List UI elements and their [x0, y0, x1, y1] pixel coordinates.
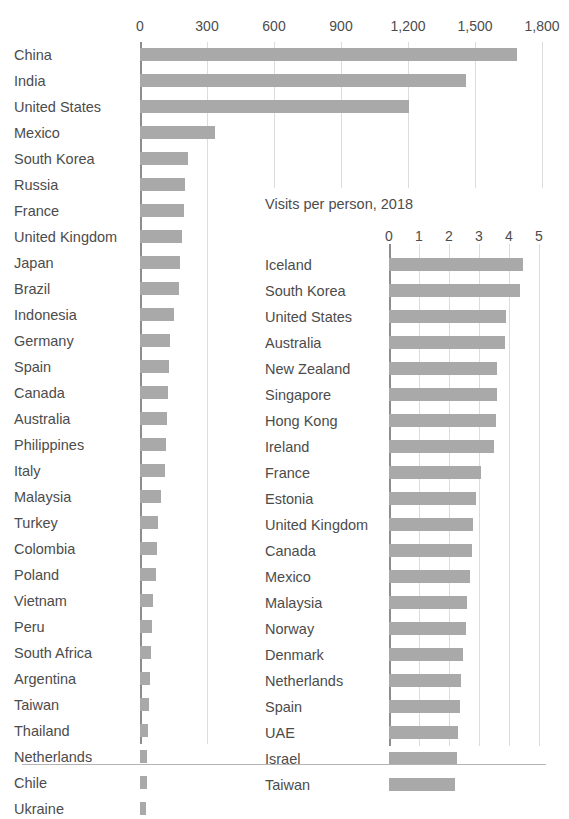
- category-label: South Korea: [265, 278, 387, 304]
- bar-row: [389, 408, 559, 434]
- category-label: Vietnam: [14, 588, 136, 614]
- inset-bar-chart: Visits per person, 2018 012345 IcelandSo…: [240, 188, 569, 754]
- category-label: Spain: [265, 694, 387, 720]
- category-label: Philippines: [14, 432, 136, 458]
- category-label: Italy: [14, 458, 136, 484]
- bar-row: [389, 434, 559, 460]
- bar: [389, 336, 505, 349]
- category-label: Colombia: [14, 536, 136, 562]
- bar: [389, 570, 470, 583]
- bar: [389, 778, 455, 791]
- category-label: United States: [14, 94, 136, 120]
- bar: [140, 698, 149, 711]
- x-tick-label: 5: [535, 228, 543, 244]
- category-label: Netherlands: [14, 744, 136, 770]
- bar: [140, 126, 215, 139]
- bar-row: [140, 120, 552, 146]
- bar-row: [389, 382, 559, 408]
- category-label: China: [14, 42, 136, 68]
- category-label: Netherlands: [265, 668, 387, 694]
- bar: [389, 362, 497, 375]
- category-label: Malaysia: [265, 590, 387, 616]
- x-tick-label: 0: [385, 228, 393, 244]
- bar-row: [389, 278, 559, 304]
- x-tick-label: 1,500: [457, 18, 492, 34]
- bar: [140, 516, 158, 529]
- bar: [140, 230, 182, 243]
- bar: [140, 646, 151, 659]
- category-label: Taiwan: [14, 692, 136, 718]
- category-label: United Kingdom: [14, 224, 136, 250]
- category-label: South Korea: [14, 146, 136, 172]
- category-label: Japan: [14, 250, 136, 276]
- bar: [140, 74, 466, 87]
- bar-row: [140, 42, 552, 68]
- category-label: Poland: [14, 562, 136, 588]
- bar-row: [389, 720, 559, 746]
- category-label: Norway: [265, 616, 387, 642]
- bar: [389, 648, 463, 661]
- category-label: South Africa: [14, 640, 136, 666]
- bar: [389, 518, 473, 531]
- category-label: Mexico: [14, 120, 136, 146]
- bar: [389, 596, 467, 609]
- bar-row: [389, 616, 559, 642]
- category-label: United States: [265, 304, 387, 330]
- category-label: Mexico: [265, 564, 387, 590]
- bar: [140, 750, 147, 763]
- bar: [389, 700, 460, 713]
- bar: [389, 310, 506, 323]
- category-label: Peru: [14, 614, 136, 640]
- bar: [140, 334, 170, 347]
- category-label: Ireland: [265, 434, 387, 460]
- x-tick-label: 1,200: [390, 18, 425, 34]
- bar: [140, 282, 179, 295]
- bar: [140, 594, 153, 607]
- bar-row: [389, 772, 559, 798]
- category-label: Spain: [14, 354, 136, 380]
- category-label: Ukraine: [14, 796, 136, 819]
- x-tick-label: 900: [329, 18, 352, 34]
- inset-chart-title: Visits per person, 2018: [265, 196, 413, 212]
- bar: [140, 620, 152, 633]
- category-label: Denmark: [265, 642, 387, 668]
- bar: [140, 204, 184, 217]
- bar: [389, 622, 466, 635]
- bar-row: [389, 304, 559, 330]
- category-label: Israel: [265, 746, 387, 772]
- inset-category-labels: IcelandSouth KoreaUnited StatesAustralia…: [265, 252, 387, 798]
- bar-row: [389, 330, 559, 356]
- category-label: New Zealand: [265, 356, 387, 382]
- x-tick-label: 1,800: [524, 18, 559, 34]
- bar-row: [140, 796, 552, 819]
- category-label: Argentina: [14, 666, 136, 692]
- bar: [389, 726, 458, 739]
- category-label: United Kingdom: [265, 512, 387, 538]
- bar: [140, 386, 168, 399]
- bar: [389, 258, 523, 271]
- bar: [389, 492, 476, 505]
- bar: [140, 308, 174, 321]
- category-label: Singapore: [265, 382, 387, 408]
- category-label: Canada: [14, 380, 136, 406]
- bar-row: [140, 94, 552, 120]
- category-label: Thailand: [14, 718, 136, 744]
- bar: [389, 544, 472, 557]
- bar: [140, 776, 147, 789]
- category-label: Malaysia: [14, 484, 136, 510]
- bar-row: [389, 668, 559, 694]
- bar: [389, 414, 496, 427]
- bar: [140, 438, 166, 451]
- x-tick-label: 2: [445, 228, 453, 244]
- x-tick-label: 4: [505, 228, 513, 244]
- x-tick-label: 300: [195, 18, 218, 34]
- bar-row: [389, 746, 559, 772]
- bar: [389, 466, 481, 479]
- category-label: Iceland: [265, 252, 387, 278]
- bar-row: [389, 642, 559, 668]
- bar-row: [389, 590, 559, 616]
- bar-row: [389, 512, 559, 538]
- bar-row: [389, 356, 559, 382]
- category-label: Taiwan: [265, 772, 387, 798]
- category-label: Australia: [14, 406, 136, 432]
